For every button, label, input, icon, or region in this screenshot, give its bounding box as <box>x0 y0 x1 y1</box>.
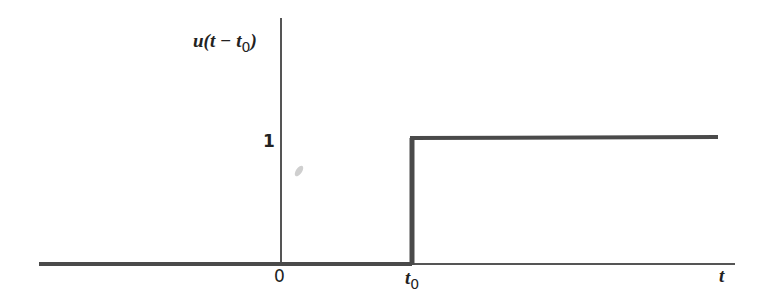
y-tick-label-1: 1 <box>263 133 275 150</box>
step-function-plot <box>0 0 766 303</box>
function-label-main: u(t − t <box>193 30 241 51</box>
t0-label: t0 <box>405 268 419 287</box>
origin-label: 0 <box>274 268 285 285</box>
ink-smudge <box>293 164 305 177</box>
x-axis-label: t <box>719 266 724 285</box>
step-one-segment <box>410 137 718 138</box>
function-label: u(t − t0) <box>193 31 257 50</box>
t0-label-sub: 0 <box>410 276 419 292</box>
function-label-close: ) <box>250 30 256 51</box>
function-label-sub: 0 <box>241 39 250 55</box>
